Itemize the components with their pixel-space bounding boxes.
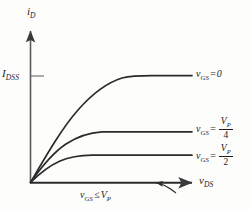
x-axis-label: vDS — [199, 175, 213, 189]
cutoff-annotation-label: vGS≤VP — [80, 190, 111, 203]
curve-vgs-0 — [31, 76, 193, 183]
curve-label-vgs-vp-over-4: vGS=VP4 — [196, 118, 233, 142]
curve-label-vgs-vp-over-2: vGS=VP2 — [196, 145, 233, 169]
cutoff-annotation-arrow — [156, 183, 176, 193]
y-axis-label: iD — [27, 6, 36, 20]
fraction-vp-over-4: VP4 — [219, 117, 233, 141]
curve-vgs-vp-over-2 — [31, 155, 193, 182]
curve-vgs-vp-over-4 — [31, 132, 193, 183]
figure-canvas: iD IDSS vDS vGS=0 vGS=VP4 vGS=VP2 vGS≤VP — [0, 0, 251, 212]
fraction-vp-over-2: VP2 — [219, 144, 233, 168]
idss-tick-label: IDSS — [2, 68, 19, 82]
curve-label-vgs-0: vGS=0 — [196, 69, 222, 82]
